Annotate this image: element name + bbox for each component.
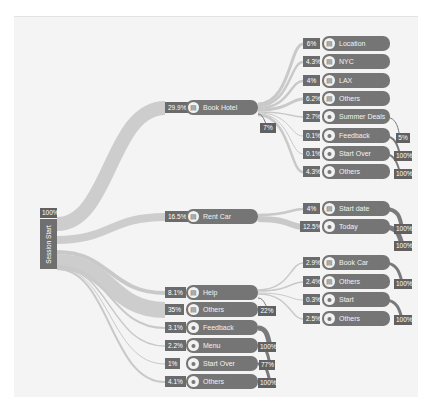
l1-percent: 2.2% [165, 340, 186, 351]
node-nyc[interactable]: ▤NYC [322, 54, 390, 69]
node-label: Summer Deals [339, 109, 385, 124]
face-icon: ☻ [188, 340, 199, 351]
l2-percent: 2.9% [303, 257, 320, 268]
face-icon: ☻ [324, 166, 335, 177]
l2-percent: 2.4% [303, 276, 320, 287]
node-lax[interactable]: ▤LAX [322, 73, 390, 88]
l2-percent: 0.1% [303, 130, 320, 141]
node-label: Others [339, 274, 360, 289]
node-start-date[interactable]: ▤Start date [322, 201, 390, 216]
l2-percent: 4.3% [303, 166, 320, 177]
dropoff-tag: 22% [258, 306, 276, 316]
face-icon: ☻ [188, 376, 199, 387]
node-start[interactable]: ☻Start [322, 292, 390, 307]
bot-icon: ▤ [324, 203, 335, 214]
l1-percent: 4.1% [165, 376, 186, 387]
face-icon: ☻ [324, 294, 335, 305]
node-start-over[interactable]: ☻Start Over [186, 356, 258, 371]
node-others-2[interactable]: ☻Others [186, 374, 258, 389]
node-rent-car[interactable]: ▤Rent Car [186, 209, 258, 224]
node-label: Start Over [339, 146, 371, 161]
dropoff-tag: 100% [394, 151, 412, 161]
node-label: Help [203, 285, 217, 300]
node-label: Menu [203, 338, 221, 353]
node-others-hotel-2[interactable]: ☻Others [322, 164, 390, 179]
node-label: Start [339, 292, 354, 307]
node-label: Others [203, 302, 224, 317]
dropoff-tag: 100% [258, 378, 276, 388]
face-icon: ☻ [324, 148, 335, 159]
root-node-label: Session Start [40, 219, 57, 269]
node-label: NYC [339, 54, 354, 69]
l2-percent: 12.5% [300, 221, 320, 232]
sankey-canvas: 100% Session Start 29.9% ▤Book Hotel 16.… [0, 0, 431, 410]
node-label: Feedback [339, 128, 370, 143]
node-label: Others [339, 91, 360, 106]
node-label: Location [339, 36, 365, 51]
node-label: Others [203, 374, 224, 389]
node-others-help[interactable]: ▤Others [322, 274, 390, 289]
bot-icon: ▤ [324, 56, 335, 67]
l2-percent: 6% [303, 38, 320, 49]
face-icon: ☻ [188, 322, 199, 333]
dropoff-tag: 100% [394, 241, 412, 251]
dropoff-tag: 100% [258, 342, 276, 352]
node-label: Feedback [203, 320, 234, 335]
node-label: Start Over [203, 356, 235, 371]
bot-icon: ▤ [324, 75, 335, 86]
root-label-text: Session Start [45, 225, 52, 264]
l2-percent: 4% [303, 203, 320, 214]
l2-percent: 0.3% [303, 294, 320, 305]
node-book-hotel[interactable]: ▤Book Hotel [186, 100, 258, 115]
bot-icon: ▤ [324, 93, 335, 104]
node-label: Start date [339, 201, 369, 216]
bot-icon: ▤ [188, 102, 199, 113]
l2-percent: 0.1% [303, 148, 320, 159]
node-others-hotel[interactable]: ▤Others [322, 91, 390, 106]
node-label: LAX [339, 73, 352, 88]
node-book-car[interactable]: ▤Book Car [322, 255, 390, 270]
face-icon: ☻ [188, 358, 199, 369]
l1-percent: 3.1% [165, 322, 186, 333]
bot-icon: ▤ [324, 276, 335, 287]
face-icon: ☻ [324, 111, 335, 122]
node-feedback[interactable]: ☻Feedback [186, 320, 258, 335]
bot-icon: ▤ [188, 287, 199, 298]
l1-percent: 8.1% [165, 287, 186, 298]
bot-icon: ▤ [188, 304, 199, 315]
dropoff-tag: 77% [259, 360, 275, 370]
bot-icon: ▤ [324, 38, 335, 49]
l2-percent: 6.2% [303, 93, 320, 104]
node-feedback-hotel[interactable]: ☻Feedback [322, 128, 390, 143]
dropoff-tag: 100% [394, 279, 412, 289]
l2-percent: 4% [303, 75, 320, 86]
node-label: Rent Car [203, 209, 231, 224]
node-menu[interactable]: ☻Menu [186, 338, 258, 353]
node-today[interactable]: ☻Today [322, 219, 390, 234]
node-others-help-2[interactable]: ☻Others [322, 311, 390, 326]
dropoff-tag: 100% [394, 224, 412, 234]
l1-percent: 1% [165, 358, 180, 369]
node-summer-deals[interactable]: ☻Summer Deals [322, 109, 390, 124]
face-icon: ☻ [324, 130, 335, 141]
dropoff-tag: 5% [396, 133, 410, 143]
l1-percent: 35% [165, 304, 184, 315]
face-icon: ☻ [324, 313, 335, 324]
bot-icon: ▤ [324, 257, 335, 268]
face-icon: ☻ [324, 221, 335, 232]
bot-icon: ▤ [188, 211, 199, 222]
node-start-over-hotel[interactable]: ☻Start Over [322, 146, 390, 161]
l2-percent: 4.3% [303, 56, 320, 67]
node-others[interactable]: ▤Others [186, 302, 258, 317]
dropoff-tag: 100% [394, 169, 412, 179]
node-label: Book Hotel [203, 100, 237, 115]
node-label: Others [339, 164, 360, 179]
node-label: Book Car [339, 255, 368, 270]
l2-percent: 2.5% [303, 313, 320, 324]
node-location[interactable]: ▤Location [322, 36, 390, 51]
dropoff-tag: 7% [260, 123, 276, 133]
node-label: Today [339, 219, 358, 234]
node-label: Others [339, 311, 360, 326]
node-help[interactable]: ▤Help [186, 285, 258, 300]
l2-percent: 2.7% [303, 111, 320, 122]
